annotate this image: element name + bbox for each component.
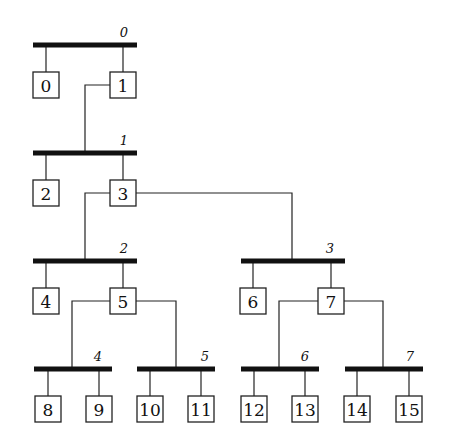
node-7: 7: [318, 288, 344, 314]
node-3: 3: [110, 180, 136, 206]
node-label: 9: [94, 400, 105, 420]
link-line: [344, 301, 383, 369]
tree-diagram: 01234567 0123456789101112131415: [0, 0, 450, 448]
node-12: 12: [241, 396, 267, 422]
bus-bar: [33, 43, 137, 48]
bus-bar: [33, 259, 137, 264]
link-line: [72, 301, 110, 369]
link-line: [279, 301, 318, 369]
bus-4: 4: [34, 349, 112, 372]
buses: 01234567: [33, 25, 423, 372]
bus-label: 0: [120, 25, 128, 40]
link-lines: [72, 85, 383, 369]
bus-6: 6: [241, 349, 319, 372]
node-4: 4: [33, 288, 59, 314]
node-label: 6: [248, 292, 259, 312]
link-line: [136, 301, 176, 369]
node-6: 6: [240, 288, 266, 314]
node-label: 0: [41, 76, 52, 96]
node-1: 1: [110, 72, 136, 98]
bus-0: 0: [33, 25, 137, 48]
bus-label: 1: [120, 133, 128, 148]
bus-label: 6: [301, 349, 309, 364]
bus-bar: [345, 367, 423, 372]
bus-bar: [34, 367, 112, 372]
node-label: 2: [41, 184, 52, 204]
bus-label: 2: [119, 241, 128, 256]
node-label: 7: [326, 292, 337, 312]
bus-3: 3: [241, 241, 345, 264]
node-5: 5: [110, 288, 136, 314]
node-label: 10: [139, 400, 161, 420]
bus-label: 4: [93, 349, 102, 364]
node-13: 13: [292, 396, 318, 422]
bus-bar: [241, 367, 319, 372]
node-11: 11: [188, 396, 214, 422]
bus-bar: [33, 151, 137, 156]
node-10: 10: [137, 396, 163, 422]
node-label: 11: [190, 400, 212, 420]
node-15: 15: [396, 396, 422, 422]
node-label: 3: [118, 184, 129, 204]
bus-label: 5: [201, 349, 209, 364]
node-label: 1: [118, 76, 129, 96]
node-label: 15: [398, 400, 420, 420]
bus-label: 7: [406, 349, 415, 364]
bus-7: 7: [345, 349, 423, 372]
node-label: 12: [243, 400, 265, 420]
bus-node-stubs: [46, 45, 409, 396]
node-8: 8: [35, 396, 61, 422]
node-label: 5: [118, 292, 129, 312]
bus-bar: [137, 367, 215, 372]
node-0: 0: [33, 72, 59, 98]
node-label: 14: [346, 400, 368, 420]
link-line: [136, 193, 292, 261]
bus-bar: [241, 259, 345, 264]
node-2: 2: [33, 180, 59, 206]
bus-label: 3: [326, 241, 334, 256]
link-line: [85, 193, 110, 261]
node-14: 14: [344, 396, 370, 422]
link-line: [85, 85, 110, 153]
node-9: 9: [86, 396, 112, 422]
node-label: 13: [294, 400, 316, 420]
node-label: 4: [41, 292, 52, 312]
node-label: 8: [43, 400, 54, 420]
